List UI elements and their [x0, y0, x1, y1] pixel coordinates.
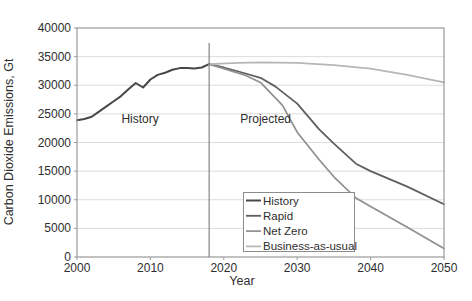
legend-label-2: Rapid [263, 210, 293, 222]
legend-label-3: Net Zero [263, 225, 308, 237]
y-tick-label: 30000 [38, 78, 72, 92]
legend: HistoryRapidNet ZeroBusiness-as-usual [244, 193, 357, 253]
y-tick-label: 5000 [44, 221, 71, 235]
x-axis-title: Year [229, 274, 254, 288]
x-tick-label: 2010 [137, 261, 164, 275]
chart-figure: 0500010000150002000025000300003500040000… [0, 0, 472, 301]
y-tick-label: 40000 [38, 21, 72, 35]
y-tick-label: 15000 [38, 164, 72, 178]
x-tick-label: 2040 [357, 261, 384, 275]
x-tick-label: 2050 [431, 261, 458, 275]
legend-label-4: Business-as-usual [263, 240, 357, 252]
y-tick-label: 35000 [38, 50, 72, 64]
x-tick-label: 2000 [64, 261, 91, 275]
legend-label-1: History [263, 195, 299, 207]
emissions-chart: 0500010000150002000025000300003500040000… [0, 0, 472, 301]
y-axis-title: Carbon Dioxide Emissions, Gt [2, 58, 16, 225]
history-annotation: History [121, 112, 158, 126]
y-tick-label: 20000 [38, 136, 72, 150]
x-tick-label: 2030 [284, 261, 311, 275]
y-tick-label: 25000 [38, 107, 72, 121]
x-tick-label: 2020 [210, 261, 237, 275]
projected-annotation: Projected [240, 112, 291, 126]
y-tick-label: 10000 [38, 193, 72, 207]
